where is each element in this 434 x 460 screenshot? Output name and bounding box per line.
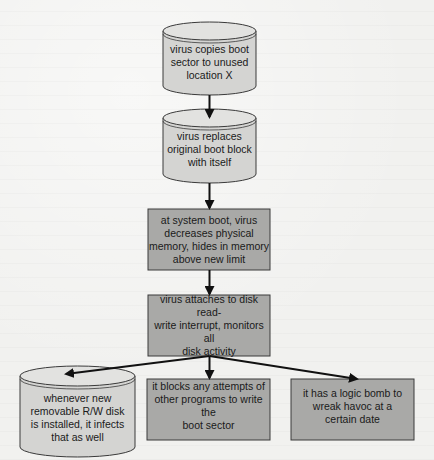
arrow-n4-to-n5 bbox=[66, 356, 210, 374]
node-label-decrease-memory: at system boot, virus decreases physical… bbox=[148, 209, 270, 270]
node-label-logic-bomb: it has a logic bomb to wreak havoc at a … bbox=[291, 379, 414, 433]
node-label-attach-interrupt: virus attaches to disk read- write inter… bbox=[148, 295, 270, 356]
node-label-copy-boot-sector: virus copies boot sector to unused locat… bbox=[163, 42, 256, 82]
arrow-n4-to-n7 bbox=[210, 356, 358, 379]
node-label-infect-removable-disk: whenever new removable R/W disk is insta… bbox=[20, 390, 135, 446]
node-label-block-writes: it blocks any attempts of other programs… bbox=[147, 379, 270, 433]
node-label-replace-boot-block: virus replaces original boot block with … bbox=[160, 129, 259, 169]
